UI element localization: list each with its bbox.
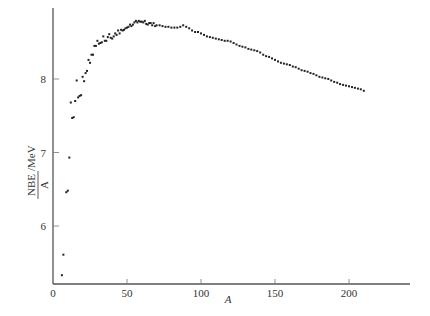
data-point [108, 33, 110, 35]
data-point [360, 88, 362, 90]
data-point [247, 48, 249, 50]
data-point [128, 26, 130, 28]
data-point [310, 72, 312, 74]
data-point [96, 40, 98, 42]
y-tick-label: 7 [41, 147, 47, 159]
data-point [292, 66, 294, 68]
data-point [256, 50, 258, 52]
data-point [167, 26, 169, 28]
y-label-numerator: NBE [25, 174, 37, 196]
y-ticks: 678 [41, 73, 60, 232]
data-point [88, 59, 90, 61]
data-point [283, 63, 285, 65]
data-point [295, 66, 297, 68]
data-point [150, 22, 152, 24]
data-point [236, 44, 238, 46]
data-point [298, 68, 300, 70]
data-point [74, 100, 76, 102]
data-point [224, 40, 226, 42]
y-axis-label: NBE A /MeV [25, 145, 50, 199]
data-point [153, 22, 155, 24]
data-point [321, 77, 323, 79]
data-point [197, 31, 199, 33]
data-points [61, 20, 365, 276]
x-tick-label: 100 [193, 287, 210, 299]
y-tick-label: 6 [41, 220, 47, 232]
data-point [333, 81, 335, 83]
data-point [262, 54, 264, 56]
data-point [111, 38, 113, 40]
data-point [221, 39, 223, 41]
data-point [218, 38, 220, 40]
data-point [253, 49, 255, 51]
data-point [277, 60, 279, 62]
data-point [345, 85, 347, 87]
data-point [212, 37, 214, 39]
data-point [113, 35, 115, 37]
binding-energy-chart: 678 050100150200 A NBE A /MeV [0, 0, 430, 316]
x-tick-label: 0 [50, 287, 56, 299]
data-point [259, 52, 261, 54]
data-point [101, 41, 103, 43]
x-ticks: 050100150200 [50, 279, 358, 299]
data-point [173, 27, 175, 29]
data-point [76, 80, 78, 82]
data-point [119, 32, 121, 34]
data-point [280, 62, 282, 64]
y-tick-label: 8 [41, 73, 47, 85]
data-point [351, 86, 353, 88]
data-point [176, 27, 178, 29]
data-point [301, 69, 303, 71]
x-tick-label: 150 [267, 287, 284, 299]
data-point [357, 88, 359, 90]
data-point [170, 27, 172, 29]
data-point [107, 36, 109, 38]
data-point [117, 30, 119, 32]
data-point [318, 76, 320, 78]
data-point [304, 70, 306, 72]
data-point [209, 36, 211, 38]
data-point [144, 20, 146, 22]
data-point [116, 34, 118, 36]
data-point [102, 35, 104, 37]
data-point [165, 26, 167, 28]
x-axis-label: A [224, 293, 232, 305]
data-point [233, 42, 235, 44]
data-point [73, 116, 75, 118]
data-point [156, 24, 158, 26]
data-point [61, 274, 63, 276]
data-point [315, 74, 317, 76]
data-point [67, 190, 69, 192]
data-point [336, 82, 338, 84]
data-point [239, 45, 241, 47]
data-point [95, 45, 97, 47]
data-point [89, 62, 91, 64]
data-point [215, 38, 217, 40]
data-point [194, 31, 196, 33]
data-point [363, 90, 365, 92]
x-tick-label: 200 [341, 287, 358, 299]
data-point [151, 24, 153, 26]
data-point [265, 55, 267, 57]
data-point [191, 30, 193, 32]
data-point [162, 25, 164, 27]
data-point [227, 40, 229, 42]
data-point [230, 41, 232, 43]
data-point [250, 49, 252, 51]
data-point [330, 80, 332, 82]
data-point [68, 157, 70, 159]
data-point [86, 70, 88, 72]
data-point [241, 46, 243, 48]
data-point [92, 54, 94, 56]
data-point [132, 24, 134, 26]
data-point [105, 40, 107, 42]
data-point [182, 24, 184, 26]
data-point [313, 73, 315, 75]
x-tick-label: 50 [122, 287, 134, 299]
data-point [271, 57, 273, 59]
data-point [324, 77, 326, 79]
data-point [244, 46, 246, 48]
data-point [179, 26, 181, 28]
data-point [268, 56, 270, 58]
data-point [339, 83, 341, 85]
